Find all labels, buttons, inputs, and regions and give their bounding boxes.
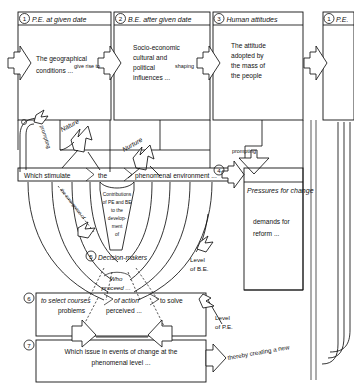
diagram-svg: 1 P.E. at given date The geographical co… — [0, 0, 354, 389]
stage-1-repeat-header: P.E. — [336, 16, 348, 23]
arrow-into-stage-1 — [8, 46, 31, 80]
stage-6-line-c: to solve — [160, 297, 183, 304]
label-level-be-b: of B.E. — [190, 265, 209, 272]
label-level-pe-a: Level — [215, 314, 230, 321]
label-level-pe-b: of P.E. — [215, 323, 233, 330]
arrow-into-stage-1-repeat — [304, 46, 327, 80]
stage-1-repeat-number: 1 — [327, 15, 331, 22]
stage-6-line-a: to select courses — [41, 297, 91, 304]
stage-5-header: Decision-makers — [98, 254, 148, 261]
arrow-stage2-to-stage3 — [197, 46, 220, 80]
stage-5-body-line-1: Who — [110, 275, 123, 282]
arrow-level-be — [197, 236, 213, 252]
dashed-ray-4 — [136, 268, 158, 300]
stage-7-line-a: Which issue in events of change at the — [65, 348, 178, 356]
swirl-line-3: to the — [111, 208, 123, 213]
stage-4-body-line-2: reform ... — [253, 230, 280, 237]
stage-6-line-e: perceived ... — [106, 307, 142, 315]
arrow-stage1-to-stage2 — [98, 46, 121, 80]
label-shaping: shaping — [175, 63, 194, 69]
arrow-nature — [71, 126, 92, 152]
return-loop-inner-2 — [322, 122, 338, 364]
stage-1-header: P.E. at given date — [32, 16, 86, 24]
swirl-arc-outer-left — [28, 182, 104, 300]
stage-1-body-line-1: The geographical — [36, 55, 87, 63]
swirl-line-6: of — [115, 232, 120, 237]
stage-2-body-line-4: influences ... — [133, 74, 170, 81]
diagram-canvas: 1 P.E. at given date The geographical co… — [0, 0, 354, 389]
stage-2-body-line-1: Socio-economic — [133, 44, 181, 51]
stage-3-header: Human attitudes — [227, 16, 278, 23]
arrow-box6-to-box7-right — [148, 320, 172, 347]
stage-1-body-line-2: conditions ... — [36, 67, 73, 74]
swirl-line-1: Contributions — [103, 192, 132, 197]
swirl-line-2: of PE and BE — [103, 200, 132, 205]
stage-3-body-line-3: the mass of — [231, 62, 265, 69]
stage-4-number: 4 — [217, 167, 221, 174]
stage-3-body-line-4: the people — [231, 72, 262, 80]
stage-5-body-line-2: proceed ... — [100, 284, 130, 291]
label-give-rise-to: give rise to — [74, 63, 100, 69]
band-segment-3: phenomenal environment ... — [135, 172, 217, 180]
feedback-loop-left-outer — [20, 118, 40, 172]
label-level-be-a: Level — [190, 256, 205, 263]
stage-1-number: 1 — [23, 15, 27, 22]
stage-6-number: 6 — [27, 295, 31, 302]
stage-2-number: 2 — [119, 15, 123, 22]
swirl-arc-right-2 — [134, 182, 190, 292]
box-stage-1-repeat — [323, 12, 354, 120]
stage-4-body-line-1: demands for — [253, 218, 290, 225]
return-loop-inner — [328, 122, 344, 358]
band-segment-2: the — [98, 172, 107, 179]
stage-4-header: Pressures for change — [247, 187, 314, 195]
stage-3-number: 3 — [217, 15, 221, 22]
stage-6-line-b: of action — [114, 297, 139, 304]
label-thereby-creating-a-new: thereby creating a new — [227, 343, 290, 361]
swirl-line-4: develop- — [108, 216, 127, 221]
stage-7-line-b: phenomenal level ... — [91, 359, 150, 367]
swirl-line-5: ment — [112, 224, 123, 229]
arrow-box6-to-box7-left — [72, 320, 96, 347]
stage-5-number: 5 — [89, 253, 93, 260]
return-loop-outer — [330, 122, 350, 352]
stage-6-line-d: problems — [58, 307, 86, 315]
stage-7-number: 7 — [27, 342, 31, 349]
arrow-thereby-creating — [206, 344, 226, 372]
band-segment-1: Which stimulate — [24, 172, 71, 179]
box-stage-2 — [114, 12, 210, 120]
arrow-into-stage-4 — [222, 161, 244, 188]
arrow-prompting-left-head — [34, 110, 48, 124]
swirl-arc-right-3 — [130, 182, 170, 280]
feedback-loop-left-inner — [26, 124, 34, 170]
arrow-emergence-head — [78, 222, 95, 238]
stage-2-body-line-2: cultural and — [133, 54, 167, 61]
stage-2-body-line-3: political — [133, 64, 156, 72]
arrow-level-pe — [199, 294, 214, 308]
label-emergence: the emergence of — [59, 188, 86, 221]
stage-2-header: B.E. after given date — [128, 16, 192, 24]
stage-3-body-line-1: The attitude — [231, 42, 266, 49]
label-prompting-left: prompting — [39, 124, 52, 149]
label-prompting-right: prompting — [232, 148, 256, 154]
stage-3-body-line-2: adopted by — [231, 52, 264, 60]
